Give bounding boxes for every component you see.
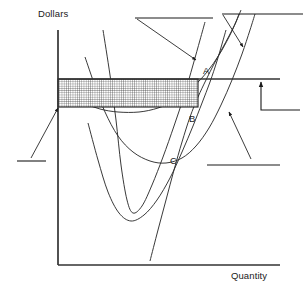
axes-group [58,30,280,265]
long-run-curve [88,30,226,221]
callout-left-leader [31,108,58,158]
lower-steep-curve [150,14,239,261]
y-axis-label: Dollars [38,8,68,19]
shaded-profit-region [58,79,198,107]
shaded-region-rect [58,79,198,107]
curve-group [58,10,255,261]
point-label-a: A [203,65,209,76]
x-axis-label: Quantity [231,270,267,281]
cost-curve-diagram: Dollars Quantity A B C [0,0,308,294]
callout-top-left-leader [137,19,196,60]
callout-bottom-right-leader [229,112,251,159]
point-label-c: C [170,155,177,166]
diagram-svg [0,0,308,294]
point-label-b: B [189,113,195,124]
callout-price-elbow-elbow [261,82,300,110]
